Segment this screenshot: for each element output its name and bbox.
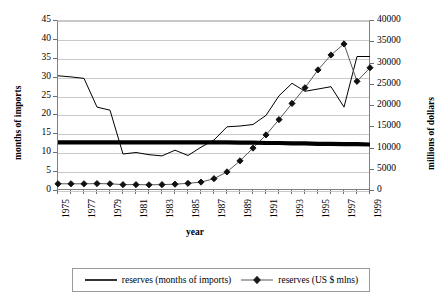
y-axis-right-tick-label: 25000 (377, 78, 415, 88)
data-point-marker (198, 179, 204, 185)
data-point-marker (55, 181, 61, 187)
y-axis-left-tick-label: 15 (25, 127, 51, 137)
x-axis-tick-label: 1993 (295, 199, 305, 218)
y-axis-right-tick-label: 20000 (377, 99, 415, 109)
legend-label-months: reserves (months of imports) (122, 275, 232, 285)
x-axis-tick-label: 1985 (191, 199, 201, 218)
y-axis-right-tick-label: 15000 (377, 120, 415, 130)
legend-label-usd: reserves (US $ mlns) (278, 275, 358, 285)
x-axis-tick-label: 1989 (243, 199, 253, 218)
data-point-marker (120, 182, 126, 188)
data-point-marker (81, 181, 87, 187)
data-point-marker (211, 176, 217, 182)
y-axis-left-title: months of imports (13, 86, 23, 160)
y-axis-left-tick-label: 25 (25, 90, 51, 100)
legend-item-usd: reserves (US $ mlns) (240, 275, 358, 285)
y-axis-left-tick-label: 5 (25, 165, 51, 175)
chart-figure: months of imports millions of dollars ye… (0, 0, 435, 301)
data-series-layer (58, 21, 371, 191)
x-axis-tick-label: 1991 (269, 199, 279, 218)
data-point-marker (185, 180, 191, 186)
y-axis-right-title: millions of dollars (426, 97, 435, 170)
y-axis-right-tick-label: 5000 (377, 163, 415, 173)
y-axis-left-tick-label: 20 (25, 108, 51, 118)
y-axis-left-tick-label: 35 (25, 52, 51, 62)
x-axis-tick-label: 1975 (61, 199, 71, 218)
y-axis-right-tick-label: 10000 (377, 142, 415, 152)
gridline (58, 191, 369, 192)
data-point-marker (94, 180, 100, 186)
x-axis-tick-label: 1997 (347, 199, 357, 218)
chart-legend: reserves (months of imports) reserves (U… (72, 268, 370, 292)
data-point-marker (146, 182, 152, 188)
x-axis-tick-label: 1977 (87, 199, 97, 218)
x-axis-tick-label: 1981 (139, 199, 149, 218)
legend-line-icon (84, 275, 118, 285)
x-axis-tick-label: 1995 (321, 199, 331, 218)
series-reserves-usd (55, 41, 373, 188)
y-axis-left-tick-label: 10 (25, 146, 51, 156)
y-axis-left-tick-label: 40 (25, 33, 51, 43)
y-axis-left-tick-label: 30 (25, 71, 51, 81)
x-axis-tick-label: 1979 (113, 199, 123, 218)
y-axis-right-tick-label: 35000 (377, 35, 415, 45)
data-point-marker (159, 182, 165, 188)
y-axis-left-tick-label: 45 (25, 14, 51, 24)
data-point-marker (172, 181, 178, 187)
data-point-marker (133, 182, 139, 188)
x-axis-tick-label: 1987 (217, 199, 227, 218)
y-axis-right-tick-label: 30000 (377, 57, 415, 67)
x-axis-title: year (186, 227, 204, 237)
data-point-marker (68, 181, 74, 187)
y-axis-left-tick-label: 0 (25, 184, 51, 194)
data-point-marker (107, 181, 113, 187)
series-reference-line (58, 142, 370, 144)
x-axis-tick-label: 1983 (165, 199, 175, 218)
legend-item-months: reserves (months of imports) (84, 275, 232, 285)
plot-area (57, 20, 370, 190)
y-axis-right-tick-label: 40000 (377, 14, 415, 24)
x-axis-tick-label: 1999 (373, 199, 383, 218)
legend-line-diamond-icon (240, 275, 274, 285)
y-axis-right-tick-label: 0 (377, 184, 415, 194)
